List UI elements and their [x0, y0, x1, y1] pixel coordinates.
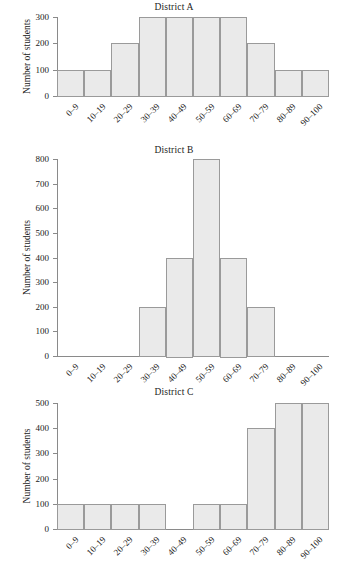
histogram-bar: [139, 17, 166, 97]
histogram-bar: [220, 17, 247, 97]
y-tick: [53, 17, 57, 18]
y-tick: [53, 403, 57, 404]
panel-district-c: District C01002003004005000–910–1920–293…: [0, 385, 348, 574]
y-axis-title-district-c: Number of students: [22, 403, 32, 529]
histogram-bar: [139, 504, 166, 530]
y-axis-title-district-b: Number of students: [22, 159, 32, 356]
histogram-bar: [111, 504, 139, 530]
histogram-bar: [166, 17, 193, 97]
histogram-bar: [84, 504, 111, 530]
histogram-bar: [166, 258, 193, 358]
histogram-bar: [220, 504, 247, 530]
histogram-bar: [247, 307, 275, 357]
y-tick: [53, 307, 57, 308]
y-tick: [53, 233, 57, 234]
plot-area-district-c: 01002003004005000–910–1920–2930–3940–495…: [57, 403, 329, 529]
chart-title-district-a: District A: [0, 2, 348, 12]
histogram-bar: [111, 43, 139, 97]
panel-district-a: District A01002003000–910–1920–2930–3940…: [0, 0, 348, 145]
y-tick: [53, 159, 57, 160]
histogram-bar: [275, 70, 302, 97]
panel-district-b: District B01002003004005006007008000–910…: [0, 145, 348, 385]
y-tick: [53, 428, 57, 429]
y-tick: [53, 331, 57, 332]
histogram-bar: [247, 428, 275, 530]
histogram-bar: [193, 159, 220, 357]
y-tick: [53, 208, 57, 209]
y-tick: [53, 282, 57, 283]
y-tick: [53, 184, 57, 185]
histogram-bar: [57, 504, 84, 530]
histogram-bar: [193, 17, 220, 97]
histogram-bar: [84, 70, 111, 97]
y-tick: [53, 356, 57, 357]
histogram-bar: [57, 70, 84, 97]
plot-area-district-a: 01002003000–910–1920–2930–3940–4950–5960…: [57, 17, 329, 96]
y-tick: [53, 258, 57, 259]
histogram-bar: [139, 307, 166, 357]
histogram-bar: [275, 403, 302, 530]
chart-title-district-c: District C: [0, 387, 348, 397]
y-tick: [53, 479, 57, 480]
histogram-bar: [302, 403, 329, 530]
histogram-bar: [247, 43, 275, 97]
chart-title-district-b: District B: [0, 145, 348, 155]
y-axis-line: [57, 159, 58, 356]
histogram-bar: [193, 504, 220, 530]
histogram-bar: [302, 70, 329, 97]
y-tick: [53, 43, 57, 44]
plot-area-district-b: 01002003004005006007008000–910–1920–2930…: [57, 159, 329, 356]
histogram-bar: [220, 258, 247, 358]
histogram-figure: District A01002003000–910–1920–2930–3940…: [0, 0, 348, 574]
y-tick: [53, 453, 57, 454]
y-axis-title-district-a: Number of students: [22, 17, 32, 96]
